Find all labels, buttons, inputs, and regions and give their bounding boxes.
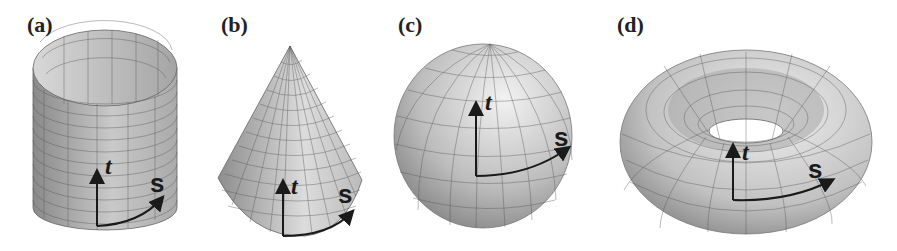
figure-canvas: t s t s <box>0 0 897 251</box>
s-label-d: s <box>808 154 822 184</box>
cone-surface: t s <box>218 46 362 236</box>
s-label-c: s <box>554 122 568 152</box>
cylinder-surface: t s <box>33 21 177 230</box>
sphere-surface: t s <box>394 44 572 228</box>
torus-surface: t s <box>620 50 872 234</box>
s-label-a: s <box>150 168 164 198</box>
s-label-b: s <box>338 179 352 209</box>
